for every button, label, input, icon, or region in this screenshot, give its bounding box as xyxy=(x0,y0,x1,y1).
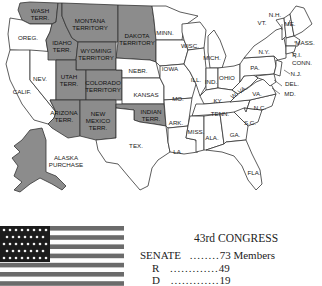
svg-text:TERRITORY: TERRITORY xyxy=(78,54,114,61)
svg-text:NEBR.: NEBR. xyxy=(129,67,148,74)
svg-text:GA.: GA. xyxy=(230,131,241,138)
svg-text:ILL.: ILL. xyxy=(191,76,202,83)
svg-text:IOWA: IOWA xyxy=(162,65,179,72)
svg-text:MINN.: MINN. xyxy=(156,29,174,36)
state-new-york xyxy=(244,28,286,60)
legend-title: 43rd CONGRESS xyxy=(194,232,278,244)
senate-row: SENATE ........73 Members xyxy=(140,249,275,261)
svg-text:KY.: KY. xyxy=(213,97,222,104)
svg-text:R.I.: R.I. xyxy=(292,51,302,58)
svg-text:N.H.: N.H. xyxy=(269,11,282,18)
svg-text:MISS.: MISS. xyxy=(188,128,205,135)
flag-canton xyxy=(0,226,50,262)
svg-text:CONN.: CONN. xyxy=(292,59,312,66)
svg-text:ARIZONA: ARIZONA xyxy=(50,109,78,116)
svg-text:ALASKA: ALASKA xyxy=(54,154,79,161)
svg-text:MICH.: MICH. xyxy=(203,54,221,61)
republican-dots: ............. xyxy=(170,262,219,274)
senate-dots: ........ xyxy=(190,249,220,261)
svg-text:MEXICO: MEXICO xyxy=(86,117,111,124)
svg-text:TENN.: TENN. xyxy=(211,110,230,117)
democrat-value: 19 xyxy=(219,274,230,286)
svg-text:WISC.: WISC. xyxy=(181,42,199,49)
state-michigan xyxy=(208,30,226,68)
svg-text:LA.: LA. xyxy=(173,148,183,155)
senate-value: 73 Members xyxy=(220,249,275,261)
democrat-label: D xyxy=(152,274,160,286)
svg-text:OHIO: OHIO xyxy=(219,74,235,81)
svg-text:FLA.: FLA. xyxy=(247,169,260,176)
svg-text:INDIAN: INDIAN xyxy=(141,108,162,115)
svg-text:NEV.: NEV. xyxy=(33,75,47,82)
svg-text:TERR.: TERR. xyxy=(55,116,74,123)
democrat-row: D .............19 xyxy=(152,274,230,286)
svg-text:WYOMING: WYOMING xyxy=(81,47,112,54)
svg-text:TERRITORY: TERRITORY xyxy=(85,86,121,93)
svg-text:IND.: IND. xyxy=(205,78,218,85)
svg-text:TERRITORY: TERRITORY xyxy=(72,24,108,31)
senate-label: SENATE xyxy=(140,249,181,261)
svg-text:TERRITORY: TERRITORY xyxy=(119,39,155,46)
svg-text:ARK.: ARK. xyxy=(169,119,184,126)
svg-text:MONTANA: MONTANA xyxy=(75,17,106,24)
svg-text:COLORADO: COLORADO xyxy=(85,79,121,86)
svg-text:UTAH: UTAH xyxy=(61,73,77,80)
svg-text:WASH: WASH xyxy=(31,7,49,14)
svg-text:N.J.: N.J. xyxy=(290,70,301,77)
us-flag xyxy=(0,226,124,286)
svg-text:PURCHASE: PURCHASE xyxy=(49,161,83,168)
svg-text:NEW: NEW xyxy=(91,110,106,117)
svg-text:DAKOTA: DAKOTA xyxy=(125,32,151,39)
svg-text:TERR.: TERR. xyxy=(53,46,72,53)
svg-text:VT.: VT. xyxy=(258,19,267,26)
state-florida xyxy=(206,140,262,190)
svg-text:DEL.: DEL. xyxy=(285,80,299,87)
svg-text:VA.: VA. xyxy=(252,90,262,97)
democrat-dots: ............. xyxy=(171,274,220,286)
svg-text:N.Y.: N.Y. xyxy=(258,48,270,55)
republican-row: R .............49 xyxy=(152,262,230,274)
svg-text:ALA.: ALA. xyxy=(205,134,219,141)
us-map-1873: WASHTERR. MONTANATERRITORY DAKOTATERRITO… xyxy=(0,0,322,222)
svg-text:N.C.: N.C. xyxy=(254,104,267,111)
svg-text:TERR.: TERR. xyxy=(89,124,108,131)
svg-text:MO.: MO. xyxy=(172,95,184,102)
svg-text:MD.: MD. xyxy=(284,90,296,97)
svg-text:S.C.: S.C. xyxy=(244,119,256,126)
republican-value: 49 xyxy=(219,262,230,274)
svg-text:TEX.: TEX. xyxy=(129,142,143,149)
svg-text:PA.: PA. xyxy=(250,64,260,71)
svg-text:IDAHO: IDAHO xyxy=(52,39,72,46)
republican-label: R xyxy=(152,262,159,274)
svg-text:ME.: ME. xyxy=(284,20,295,27)
svg-text:OREG.: OREG. xyxy=(18,34,38,41)
svg-text:MASS.: MASS. xyxy=(295,39,315,46)
svg-text:TERR.: TERR. xyxy=(60,80,79,87)
svg-text:TERR.: TERR. xyxy=(31,14,50,21)
svg-text:KANSAS: KANSAS xyxy=(133,91,158,98)
svg-text:CALIF.: CALIF. xyxy=(13,88,32,95)
svg-text:TERR.: TERR. xyxy=(142,115,161,122)
